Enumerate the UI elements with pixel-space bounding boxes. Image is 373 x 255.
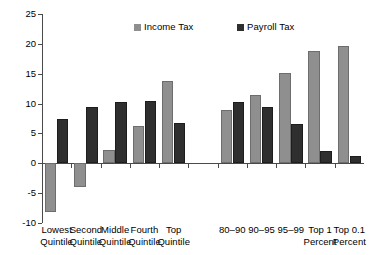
y-tick-label: 15 (25, 69, 36, 79)
x-tick-mark (218, 164, 219, 168)
bar-income-tax (162, 81, 174, 163)
y-tick-label: -5 (28, 188, 36, 198)
bar-payroll-tax (233, 102, 245, 164)
x-tick-mark (159, 164, 160, 168)
y-tick-label: 10 (25, 99, 36, 109)
y-tick-mark (38, 104, 42, 105)
bar-income-tax (133, 126, 145, 164)
bar-chart: Income Tax Payroll Tax 2520151050-5-10 L… (0, 0, 373, 255)
bar-income-tax (45, 163, 57, 211)
x-label-line2: Quintile (143, 236, 204, 248)
x-tick-mark (101, 164, 102, 168)
x-label-line2: Percent (319, 236, 373, 248)
bar-payroll-tax (57, 119, 69, 163)
x-axis-category-label: TopQuintile (143, 224, 204, 247)
x-label-line1: Top 0.1 (334, 224, 366, 235)
bar-income-tax (221, 110, 233, 163)
plot-area: 2520151050-5-10 (42, 14, 364, 223)
x-tick-mark (335, 164, 336, 168)
x-axis-labels: LowestQuintileSecondQuintileMiddleQuinti… (42, 224, 364, 250)
x-tick-mark (130, 164, 131, 168)
bar-payroll-tax (174, 123, 186, 164)
bar-payroll-tax (350, 156, 362, 163)
bar-income-tax (103, 150, 115, 164)
bar-income-tax (279, 73, 291, 163)
bar-income-tax (74, 163, 86, 187)
x-tick-mark (71, 164, 72, 168)
y-tick-mark (38, 44, 42, 45)
x-tick-mark (188, 164, 189, 168)
x-tick-mark (305, 164, 306, 168)
bar-payroll-tax (262, 107, 274, 164)
y-tick-label: 0 (31, 158, 36, 168)
y-tick-mark (38, 133, 42, 134)
bar-payroll-tax (320, 151, 332, 164)
bar-payroll-tax (145, 101, 157, 163)
y-tick-label: 5 (31, 128, 36, 138)
y-tick-mark (38, 193, 42, 194)
x-axis-category-label: Top 0.1Percent (319, 224, 373, 247)
x-tick-mark (247, 164, 248, 168)
y-tick-mark (38, 74, 42, 75)
bar-payroll-tax (291, 124, 303, 163)
x-tick-mark (276, 164, 277, 168)
bar-income-tax (338, 46, 350, 164)
y-tick-mark (38, 14, 42, 15)
y-tick-label: 25 (25, 9, 36, 19)
bar-payroll-tax (115, 102, 127, 163)
y-tick-mark (38, 163, 42, 164)
bar-income-tax (308, 51, 320, 163)
y-axis-line (42, 14, 43, 223)
bar-payroll-tax (86, 107, 98, 163)
bar-income-tax (250, 95, 262, 163)
x-label-line1: Top (166, 224, 181, 235)
y-tick-label: 20 (25, 39, 36, 49)
